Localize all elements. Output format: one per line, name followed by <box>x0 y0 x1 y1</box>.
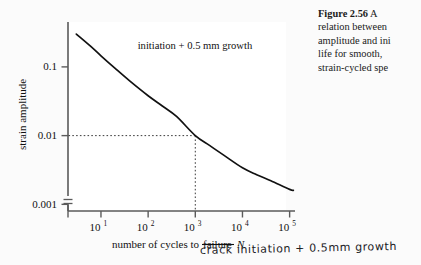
x-tick-exponent-4: 5 <box>292 219 296 228</box>
x-tick-mantissa-3: 10 <box>231 221 243 233</box>
figure-page: 0.1 0.01 0.001 10 1 10 2 10 <box>0 0 421 265</box>
curve-annotation-label: initiation + 0.5 mm growth <box>138 40 253 51</box>
y-tick-label-1: 0.01 <box>38 129 57 141</box>
caption-line-1: relation between <box>318 20 421 33</box>
handwritten-annotation: crack initiation + 0.5mm growth <box>200 240 397 257</box>
x-tick-label-0: 10 1 <box>89 219 107 233</box>
y-axis-ticks <box>62 67 69 204</box>
x-tick-exponent-0: 1 <box>103 219 107 228</box>
y-tick-label-2: 0.001 <box>32 198 57 210</box>
x-tick-mantissa-4: 10 <box>278 221 290 233</box>
caption-line-4: strain-cycled spe <box>318 61 421 74</box>
x-axis-title-prefix: number of cycles to <box>112 238 200 250</box>
x-tick-exponent-1: 2 <box>151 219 155 228</box>
strain-life-chart: 0.1 0.01 0.001 10 1 10 2 10 <box>0 0 300 265</box>
x-tick-label-3: 10 4 <box>231 219 249 233</box>
x-tick-exponent-3: 4 <box>245 219 249 228</box>
y-axis-title: strain amplitude <box>16 79 28 150</box>
x-tick-label-2: 10 3 <box>184 219 202 233</box>
figure-caption: Figure 2.56 A relation between amplitude… <box>318 7 421 74</box>
y-tick-label-0: 0.1 <box>43 60 57 72</box>
x-tick-label-1: 10 2 <box>137 219 155 233</box>
caption-line-3: life for smooth, <box>318 47 421 60</box>
x-tick-exponent-2: 3 <box>198 219 202 228</box>
caption-line-0: Figure 2.56 A <box>318 7 421 20</box>
x-tick-mantissa-1: 10 <box>137 221 149 233</box>
figure-chart-area: 0.1 0.01 0.001 10 1 10 2 10 <box>0 0 300 265</box>
x-tick-label-4: 10 5 <box>278 219 296 233</box>
caption-figure-number: Figure 2.56 <box>318 8 368 19</box>
x-tick-mantissa-2: 10 <box>184 221 196 233</box>
x-tick-mantissa-0: 10 <box>89 221 101 233</box>
caption-line-2: amplitude and ini <box>318 34 421 47</box>
